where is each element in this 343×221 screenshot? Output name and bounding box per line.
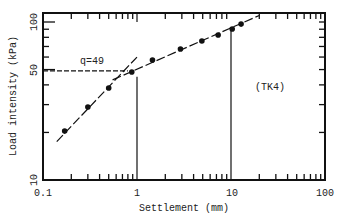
x-axis-ticks: [71, 13, 320, 180]
data-point: [106, 85, 112, 91]
reference-lines: [43, 13, 231, 180]
y-axis-title: Load intensity (kPa): [8, 36, 19, 156]
series-tag: (TK4): [255, 82, 285, 93]
x-tick-label-1: 1: [134, 188, 140, 199]
data-point: [238, 21, 244, 27]
fit-lines: [57, 15, 260, 141]
data-point: [129, 69, 135, 75]
data-point: [62, 128, 68, 134]
y-tick-label-10: 10: [29, 174, 40, 186]
x-tick-label-100: 100: [316, 188, 334, 199]
x-tick-label-10: 10: [226, 188, 238, 199]
data-points: [62, 21, 244, 134]
plot-frame: [43, 13, 325, 180]
x-tick-label-0.1: 0.1: [34, 188, 52, 199]
data-point: [150, 57, 156, 63]
q-annotation: q=49: [80, 56, 104, 67]
x-axis-title: Settlement (mm): [139, 203, 229, 214]
final-segment-line: [113, 15, 260, 79]
y-tick-label-100: 100: [29, 13, 40, 31]
data-point: [178, 46, 184, 52]
data-point: [85, 104, 91, 110]
data-point: [215, 32, 221, 38]
data-point: [199, 38, 205, 44]
initial-segment-line: [57, 57, 137, 142]
y-axis-ticks: [43, 22, 325, 132]
settlement-load-chart: 0.1 1 10 100 10 50 100 Settlement (mm) L…: [0, 0, 343, 221]
y-tick-label-50: 50: [29, 64, 40, 76]
data-point: [229, 26, 235, 32]
